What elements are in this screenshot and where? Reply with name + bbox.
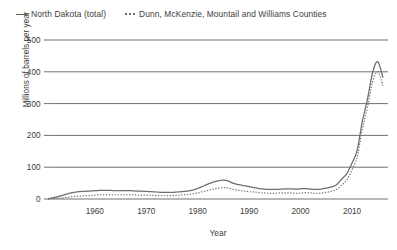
y-axis-ticks: 0100200300400500 bbox=[27, 36, 49, 204]
x-tick-label: 1970 bbox=[137, 207, 156, 216]
x-tick-label: 1960 bbox=[86, 207, 105, 216]
series-line-north-dakota-total bbox=[49, 62, 383, 199]
y-tick-label: 100 bbox=[27, 163, 41, 172]
x-tick-label: 2010 bbox=[343, 207, 362, 216]
y-tick-label: 400 bbox=[27, 68, 41, 77]
x-tick-label: 2000 bbox=[291, 207, 310, 216]
y-tick-label: 0 bbox=[36, 195, 41, 204]
y-tick-label: 500 bbox=[27, 36, 41, 45]
y-tick-label: 300 bbox=[27, 100, 41, 109]
data-series-group bbox=[49, 62, 383, 199]
x-axis-ticks: 196019701980199020002010 bbox=[86, 207, 362, 216]
plot-area: 0100200300400500 19601970198019902000201… bbox=[0, 0, 397, 250]
y-tick-label: 200 bbox=[27, 131, 41, 140]
gridlines bbox=[49, 40, 389, 199]
chart-figure: North Dakota (total) Dunn, McKenzie, Mou… bbox=[0, 0, 397, 250]
x-tick-label: 1980 bbox=[189, 207, 208, 216]
x-tick-label: 1990 bbox=[240, 207, 259, 216]
